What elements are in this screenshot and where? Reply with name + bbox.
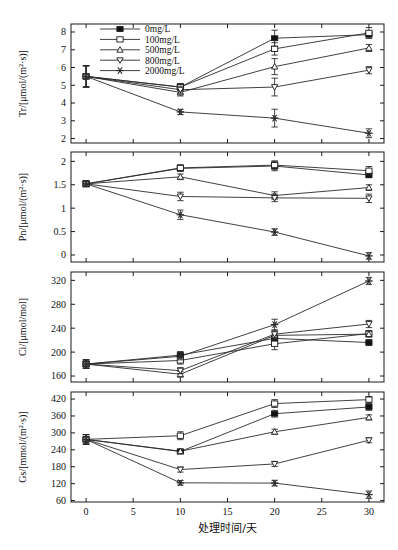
y-axis-title-panel-1: Tr/[μmol/(m²·s)] [17, 50, 29, 117]
series-line [86, 177, 369, 196]
series-0mg/L [83, 404, 372, 454]
series-100mg/L [83, 28, 372, 91]
x-tick-label-3: 15 [223, 506, 233, 517]
series-2000mg/L [82, 181, 372, 260]
svg-text:Tr/[μmol/(m²·s)]: Tr/[μmol/(m²·s)] [17, 50, 29, 117]
y-tick-label-4: 6 [61, 62, 66, 73]
marker-triangle-up [366, 184, 372, 190]
marker-open-square [117, 37, 123, 42]
legend-label-1: 100mg/L [145, 35, 180, 45]
marker-triangle-up [366, 45, 372, 51]
marker-open-square [366, 168, 372, 173]
marker-open-square [272, 162, 278, 167]
legend-item-2000mg/L: 2000mg/L [100, 66, 185, 76]
legend-label-3: 800mg/L [145, 56, 180, 66]
series-line [86, 76, 369, 133]
figure-container: 2345678Tr/[μmol/(m²·s)]00.511.52Pn/[μmol… [0, 0, 398, 550]
svg-text:Ci/[μmol/mol]: Ci/[μmol/mol] [17, 298, 28, 356]
y-tick-label-3: 280 [51, 299, 66, 310]
y-tick-label-0: 0 [61, 249, 66, 260]
marker-filled-square [366, 405, 372, 410]
y-tick-label-4: 300 [51, 427, 66, 438]
y-tick-label-2: 240 [51, 323, 66, 334]
marker-filled-square [117, 27, 123, 32]
y-tick-label-1: 120 [51, 478, 66, 489]
series-800mg/L [83, 435, 372, 473]
y-tick-label-0: 60 [56, 495, 66, 506]
marker-open-square [177, 433, 183, 438]
series-line [86, 184, 369, 256]
y-tick-label-5: 7 [61, 44, 66, 55]
series-2000mg/L [82, 66, 372, 138]
y-tick-label-4: 320 [51, 275, 66, 286]
legend-label-0: 0mg/L [145, 24, 171, 34]
series-100mg/L [83, 331, 372, 369]
marker-open-square [366, 397, 372, 402]
y-tick-label-2: 4 [61, 97, 66, 108]
y-tick-label-0: 2 [61, 133, 66, 144]
marker-open-square [272, 401, 278, 406]
marker-open-square [272, 341, 278, 346]
legend-item-0mg/L: 0mg/L [100, 24, 171, 34]
panel-1: 2345678Tr/[μmol/(m²·s)] [17, 24, 384, 144]
x-tick-label-1: 5 [131, 506, 136, 517]
marker-filled-square [272, 36, 278, 41]
y-tick-label-6: 8 [61, 26, 66, 37]
svg-text:Pn/[μmol/(m²·s)]: Pn/[μmol/(m²·s)] [17, 173, 29, 241]
y-tick-label-2: 180 [51, 461, 66, 472]
x-tick-label-0: 0 [84, 506, 89, 517]
x-tick-label-4: 20 [270, 506, 280, 517]
y-tick-label-6: 420 [51, 393, 66, 404]
x-tick-label-2: 10 [175, 506, 185, 517]
legend-item-800mg/L: 800mg/L [100, 56, 180, 66]
series-line [86, 281, 369, 364]
legend: 0mg/L100mg/L500mg/L800mg/L2000mg/L [100, 24, 185, 76]
y-tick-label-0: 160 [51, 370, 66, 381]
x-tick-label-6: 30 [364, 506, 374, 517]
legend-item-500mg/L: 500mg/L [100, 45, 180, 55]
y-tick-label-4: 2 [61, 156, 66, 167]
marker-filled-square [366, 340, 372, 345]
series-800mg/L [83, 181, 372, 203]
multi-panel-line-chart: 2345678Tr/[μmol/(m²·s)]00.511.52Pn/[μmol… [0, 0, 398, 550]
marker-filled-square [272, 411, 278, 416]
y-tick-label-3: 1.5 [54, 179, 67, 190]
y-tick-label-1: 0.5 [54, 226, 67, 237]
series-line [86, 166, 369, 184]
y-axis-title-panel-2: Pn/[μmol/(m²·s)] [17, 173, 29, 241]
panel-4: 60120180240300360420051015202530Gs/[mmol… [17, 392, 384, 517]
series-line [86, 400, 369, 440]
series-line [86, 334, 369, 364]
series-0mg/L [83, 334, 372, 368]
y-tick-label-1: 200 [51, 347, 66, 358]
legend-label-4: 2000mg/L [145, 66, 185, 76]
marker-triangle-up [177, 174, 183, 180]
marker-open-square [366, 30, 372, 35]
series-line [86, 417, 369, 451]
panel-3: 160200240280320Ci/[μmol/mol] [17, 272, 384, 382]
series-500mg/L [83, 414, 372, 453]
marker-open-square [272, 46, 278, 51]
series-100mg/L [83, 161, 372, 187]
legend-item-100mg/L: 100mg/L [100, 35, 180, 45]
series-0mg/L [83, 161, 372, 186]
series-line [86, 439, 369, 469]
y-axis-title-panel-3: Ci/[μmol/mol] [17, 298, 28, 356]
y-axis-title-panel-4: Gs/[mmol/(m²·s)] [17, 411, 29, 482]
series-line [86, 324, 369, 371]
y-tick-label-2: 1 [61, 203, 66, 214]
series-100mg/L [83, 397, 372, 445]
x-axis-title: 处理时间/天 [198, 522, 257, 535]
panel-2: 00.511.52Pn/[μmol/(m²·s)] [17, 152, 384, 262]
panel-frame [71, 392, 384, 502]
svg-text:Gs/[mmol/(m²·s)]: Gs/[mmol/(m²·s)] [17, 411, 29, 482]
marker-asterisk [116, 67, 123, 73]
y-tick-label-1: 3 [61, 115, 66, 126]
x-tick-label-5: 25 [317, 506, 327, 517]
y-tick-label-3: 5 [61, 80, 66, 91]
y-tick-label-3: 240 [51, 444, 66, 455]
marker-open-square [177, 165, 183, 170]
legend-label-2: 500mg/L [145, 45, 180, 55]
y-tick-label-5: 360 [51, 410, 66, 421]
